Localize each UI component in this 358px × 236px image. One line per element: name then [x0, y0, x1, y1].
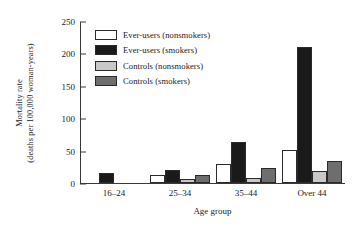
- legend: Ever-users (nonsmokers)Ever-users (smoke…: [95, 29, 210, 87]
- y-axis-title-line2: (deaths per 100,000 woman-years): [25, 43, 36, 162]
- bar: [327, 161, 342, 183]
- legend-label: Ever-users (nonsmokers): [123, 30, 210, 40]
- legend-swatch: [95, 61, 117, 71]
- x-tick-label: 16–24: [103, 188, 126, 198]
- y-tick-label: 100: [62, 114, 76, 124]
- legend-swatch: [95, 45, 117, 55]
- bar: [297, 47, 312, 183]
- bar: [180, 179, 195, 183]
- x-tick-label: Over 44: [297, 188, 326, 198]
- y-tick-label: 0: [71, 179, 76, 189]
- bar-chart: Mortality rate (deaths per 100,000 woman…: [0, 0, 358, 236]
- y-tick-label: 50: [66, 147, 75, 157]
- bar: [261, 168, 276, 183]
- legend-label: Controls (nonsmokers): [123, 61, 203, 71]
- legend-swatch: [95, 30, 117, 40]
- bar: [195, 175, 210, 183]
- bar-group: Over 44: [279, 22, 345, 183]
- bar-group: 35–44: [213, 22, 279, 183]
- y-tick-label: 250: [62, 17, 76, 27]
- y-tick-mark: [80, 184, 86, 185]
- bar: [216, 164, 231, 183]
- y-tick-label: 200: [62, 49, 76, 59]
- legend-item: Ever-users (nonsmokers): [95, 29, 210, 40]
- legend-swatch: [95, 76, 117, 86]
- bar: [231, 142, 246, 183]
- bar: [246, 178, 261, 183]
- bar: [165, 170, 180, 183]
- legend-label: Controls (smokers): [123, 76, 190, 86]
- legend-label: Ever-users (smokers): [123, 45, 197, 55]
- x-tick-label: 25–34: [169, 188, 192, 198]
- x-axis-title: Age group: [80, 206, 345, 216]
- legend-item: Controls (nonsmokers): [95, 60, 210, 71]
- bar: [312, 171, 327, 183]
- bar: [282, 150, 297, 183]
- bar: [150, 175, 165, 183]
- y-tick-label: 150: [62, 82, 76, 92]
- x-axis-line: [80, 183, 345, 184]
- y-axis-title: Mortality rate (deaths per 100,000 woman…: [14, 22, 36, 184]
- x-tick-label: 35–44: [235, 188, 258, 198]
- y-axis-title-line1: Mortality rate: [15, 43, 26, 162]
- legend-item: Ever-users (smokers): [95, 45, 210, 56]
- legend-item: Controls (smokers): [95, 76, 210, 87]
- bar: [99, 173, 114, 183]
